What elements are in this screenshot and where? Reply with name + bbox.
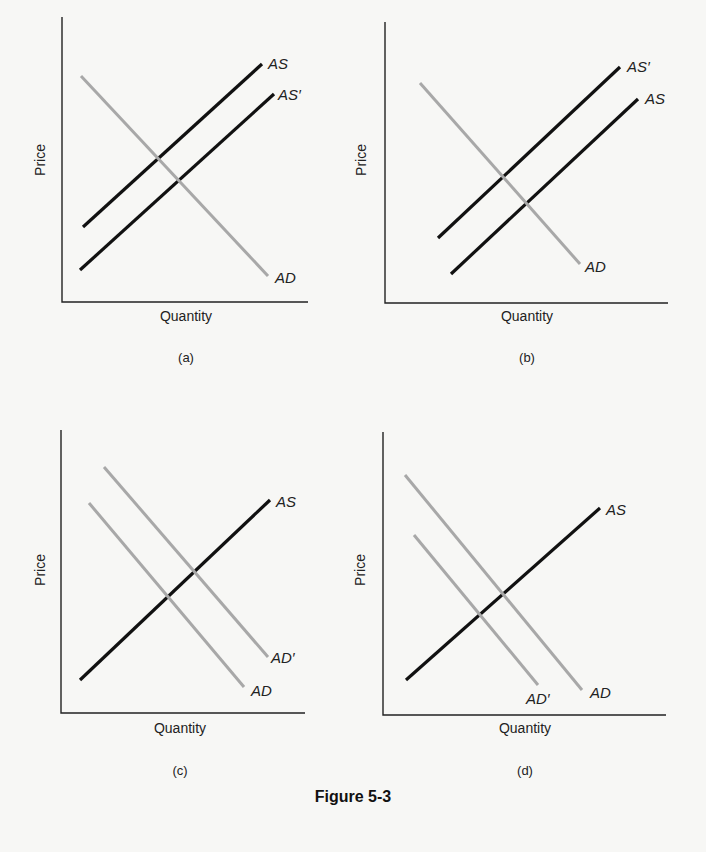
panel-label: (c): [172, 763, 187, 778]
curve-as: [451, 99, 638, 274]
axes: [61, 430, 305, 713]
figure-caption: Figure 5-3: [0, 788, 706, 806]
x-axis-label: Quantity: [160, 308, 212, 324]
curve-label-ad-prime: AD′: [525, 690, 551, 707]
panel-label: (a): [178, 350, 194, 365]
curve-label-ad: AD: [589, 684, 611, 701]
curve-ad: [420, 83, 580, 264]
curve-ad: [81, 76, 268, 276]
panel-d: ASADAD′PriceQuantity(d): [352, 432, 666, 778]
y-axis-label: Price: [32, 144, 48, 176]
curve-label-ad: AD: [250, 682, 272, 699]
x-axis-label: Quantity: [501, 308, 553, 324]
curve-label-as-prime: AS′: [626, 58, 651, 75]
curve-ad-prime: [414, 535, 538, 685]
figure-5-3: ASAS′ADPriceQuantity(a) AS′ASADPriceQuan…: [0, 0, 706, 852]
y-axis-label: Price: [32, 554, 48, 586]
curve-label-ad: AD: [274, 269, 296, 286]
panel-c: ASAD′ADPriceQuantity(c): [32, 430, 305, 778]
curve-ad: [89, 503, 244, 687]
panel-a: ASAS′ADPriceQuantity(a): [32, 17, 308, 365]
y-axis-label: Price: [352, 554, 368, 586]
curve-label-as-prime: AS′: [277, 86, 302, 103]
curve-label-as: AS: [605, 501, 626, 518]
panel-b: AS′ASADPriceQuantity(b): [353, 22, 668, 365]
panel-label: (d): [517, 763, 533, 778]
x-axis-label: Quantity: [154, 720, 206, 736]
axes: [385, 22, 668, 303]
curve-label-as: AS: [644, 90, 665, 107]
y-axis-label: Price: [353, 144, 369, 176]
curve-ad-prime: [104, 467, 268, 657]
curve-as: [83, 64, 262, 227]
curve-as-prime: [80, 94, 274, 270]
x-axis-label: Quantity: [499, 720, 551, 736]
panel-label: (b): [519, 350, 535, 365]
curve-as-prime: [438, 67, 620, 238]
curve-label-as: AS: [275, 493, 296, 510]
curve-label-as: AS: [267, 55, 288, 72]
curve-label-ad-prime: AD′: [270, 649, 296, 666]
curve-label-ad: AD: [584, 258, 606, 275]
